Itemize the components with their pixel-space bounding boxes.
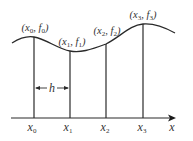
x-tick-label-1: x1 xyxy=(63,120,73,135)
spacing-label: h xyxy=(49,81,55,95)
interpolation-diagram: h (x0, f0) (x1, f1) (x2, f2) (x3, f3) x0… xyxy=(0,0,193,141)
x-axis-label: x xyxy=(168,120,175,134)
point-label-1: (x1, f1) xyxy=(59,36,86,49)
x-tick-label-0: x0 xyxy=(27,120,37,135)
point-label-2: (x2, f2) xyxy=(94,25,121,38)
x-tick-label-2: x2 xyxy=(100,120,110,135)
point-label-3: (x3, f3) xyxy=(130,9,157,22)
point-label-0: (x0, f0) xyxy=(22,22,49,35)
spacing-arrow: h xyxy=(35,81,69,95)
x-tick-label-3: x3 xyxy=(137,120,147,135)
